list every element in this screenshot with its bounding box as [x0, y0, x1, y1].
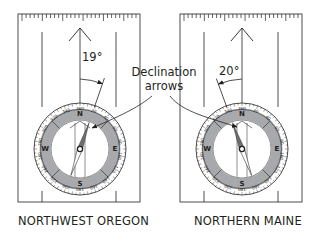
cardinal-s: S [239, 180, 244, 188]
cardinal-e: E [275, 145, 280, 153]
cardinal-e: E [113, 145, 118, 153]
declination-arrows-callout: Declination arrows [127, 65, 201, 93]
declination-arc-arrow [218, 79, 242, 84]
cardinal-s: S [77, 180, 82, 188]
left-compass: 3602040608010012014016018020022024026028… [18, 14, 140, 202]
cardinal-n: N [239, 110, 245, 118]
left-declination-label: 19° [82, 50, 102, 64]
right-compass: 3602040608010012014016018020022024026028… [180, 14, 302, 202]
left-compass-caption: NORTHWEST OREGON [18, 214, 149, 228]
right-declination-label: 20° [219, 64, 239, 78]
callout-line-1: Declination [127, 65, 201, 79]
declination-arc-arrow [80, 79, 102, 84]
cardinal-w: W [203, 145, 211, 153]
callout-line-2: arrows [127, 79, 201, 93]
compass-illustration: 3602040608010012014016018020022024026028… [0, 0, 317, 241]
right-compass-caption: NORTHERN MAINE [194, 214, 302, 228]
cardinal-n: N [77, 110, 83, 118]
declination-diagram: 3602040608010012014016018020022024026028… [0, 0, 317, 241]
cardinal-w: W [41, 145, 49, 153]
